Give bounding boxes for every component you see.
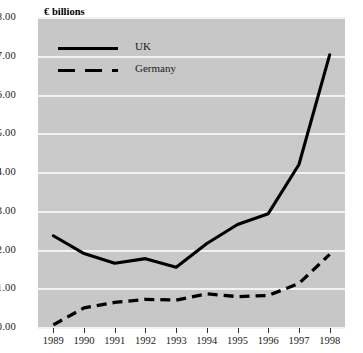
series-line-germany [53,254,329,325]
chart-container: 0.001.002.003.004.005.006.007.008.00 198… [0,0,363,353]
series-layer [0,0,363,353]
series-line-uk [53,55,329,267]
